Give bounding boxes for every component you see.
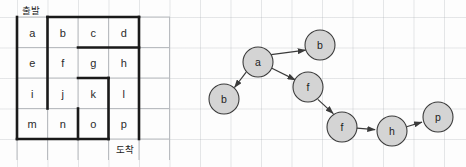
maze-diagram: a b c d e f g h i j k l m n o p 출발 도착 [0, 0, 200, 167]
edge-h-to-p [407, 122, 422, 127]
maze-goal-label: 도착 [116, 144, 134, 155]
maze-cell-a: a [29, 27, 36, 39]
maze-cell-n: n [60, 118, 66, 130]
maze-cell-f: f [61, 57, 65, 69]
maze-cell-b: b [60, 27, 66, 39]
graph-node[interactable]: f [327, 112, 357, 142]
graph-node[interactable]: h [377, 116, 407, 146]
maze-cell-d: d [121, 27, 127, 39]
node-label-a: a [255, 56, 261, 68]
maze-cell-l: l [122, 88, 124, 100]
node-label-p: p [435, 111, 441, 123]
node-label-h: h [389, 125, 395, 137]
graph-node[interactable]: b [209, 84, 239, 114]
edge-f-to-h [357, 128, 375, 130]
maze-cell-o: o [90, 118, 96, 130]
figure-root: a b c d e f g h i j k l m n o p 출발 도착 [0, 0, 466, 167]
maze-cell-j: j [60, 88, 63, 100]
node-label-b-lower: b [221, 93, 227, 105]
maze-cell-e: e [29, 57, 35, 69]
maze-cell-p: p [121, 118, 127, 130]
edge-f-to-f-second [318, 99, 334, 113]
graph-node[interactable]: f [293, 72, 323, 102]
graph-node[interactable]: p [423, 102, 453, 132]
edge-a-to-b-upper [271, 50, 305, 55]
node-label-b-upper: b [317, 39, 323, 51]
search-tree-diagram: a b b f f h p [196, 0, 466, 167]
maze-cell-g: g [90, 57, 96, 69]
node-label-f-second: f [341, 121, 344, 133]
node-label-f-first: f [307, 81, 310, 93]
graph-node[interactable]: b [305, 30, 335, 60]
edge-a-to-b-lower [235, 72, 247, 87]
graph-node[interactable]: a [243, 47, 273, 77]
maze-panel: a b c d e f g h i j k l m n o p 출발 도착 [0, 0, 200, 167]
maze-cell-c: c [90, 27, 96, 39]
maze-cell-k: k [90, 88, 96, 100]
maze-cell-h: h [121, 57, 127, 69]
maze-start-label: 출발 [22, 5, 40, 16]
maze-cell-m: m [28, 118, 37, 130]
maze-cell-i: i [31, 88, 33, 100]
graph-panel: a b b f f h p [196, 0, 466, 167]
edge-a-to-f-first [272, 68, 295, 80]
